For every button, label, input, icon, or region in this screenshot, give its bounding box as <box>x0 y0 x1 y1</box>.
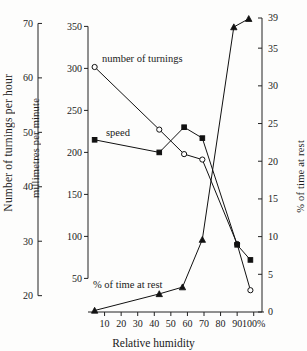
data-point-filled-square <box>200 136 205 141</box>
data-point-open-circle <box>200 157 205 162</box>
series-annotation: % of time at rest <box>93 279 162 290</box>
axis-tick-label: 100% <box>242 318 265 329</box>
axis-tick-label: 90 <box>232 318 242 329</box>
axis-tick-label: 25 <box>268 118 278 129</box>
series-number-of-turnings <box>92 64 253 292</box>
series-annotation: speed <box>106 127 131 138</box>
axis-tick-label: 39 <box>268 12 278 23</box>
axis-tick-label: 30 <box>23 236 33 247</box>
axis-tick-label: 50 <box>23 127 33 138</box>
y-axis-middle: 50100150200250300350 <box>67 21 88 284</box>
axis-tick-label: 50 <box>166 318 176 329</box>
axis-tick-label: 350 <box>67 21 82 32</box>
axis-tick-label: 0 <box>268 306 273 317</box>
axis-tick-label: 5 <box>268 269 273 280</box>
axis-tick-label: 50 <box>72 273 82 284</box>
axis-tick-label: 15 <box>268 193 278 204</box>
x-axis: 102030405060708090100% <box>88 312 265 329</box>
axis-tick-label: 200 <box>67 147 82 158</box>
axis-tick-label: 20 <box>116 318 126 329</box>
axis-tick-label: 60 <box>182 318 192 329</box>
data-point-triangle <box>246 16 252 22</box>
data-point-triangle <box>179 284 185 290</box>
axis-tick-label: 30 <box>268 80 278 91</box>
axis-tick-label: 40 <box>23 181 33 192</box>
data-point-filled-square <box>157 150 162 155</box>
data-point-triangle <box>231 24 237 30</box>
axis-tick-label: 250 <box>67 105 82 116</box>
axis-tick-label: 150 <box>67 189 82 200</box>
chart-figure: Number of turnings per hour millimetres … <box>0 0 307 351</box>
y-axis-right: 0510152025303539 <box>258 12 278 317</box>
axis-tick-label: 80 <box>216 318 226 329</box>
data-point-filled-square <box>182 125 187 130</box>
plot-canvas: 203040506070 50100150200250300350 051015… <box>0 0 307 351</box>
axis-tick-label: 20 <box>268 156 278 167</box>
data-point-filled-square <box>92 138 97 143</box>
axis-tick-label: 20 <box>23 290 33 301</box>
data-point-open-circle <box>92 64 97 69</box>
axis-tick-label: 70 <box>23 18 33 29</box>
axis-tick-label: 100 <box>67 231 82 242</box>
axis-tick-label: 10 <box>268 231 278 242</box>
axis-tick-label: 60 <box>23 72 33 83</box>
series-annotations: number of turningsspeed% of time at rest <box>93 53 183 290</box>
data-point-filled-square <box>235 243 240 248</box>
axis-tick-label: 300 <box>67 63 82 74</box>
axis-tick-label: 70 <box>199 318 209 329</box>
data-point-open-circle <box>157 127 162 132</box>
y-axis-left: 203040506070 <box>23 18 42 301</box>
series-annotation: number of turnings <box>102 53 183 64</box>
axis-tick-label: 30 <box>133 318 143 329</box>
axis-tick-label: 35 <box>268 43 278 54</box>
data-point-open-circle <box>182 152 187 157</box>
data-point-triangle <box>199 236 205 242</box>
data-point-open-circle <box>248 288 253 293</box>
axis-tick-label: 10 <box>100 318 110 329</box>
axis-tick-label: 40 <box>149 318 159 329</box>
data-point-filled-square <box>248 258 253 263</box>
series-speed <box>92 125 252 262</box>
